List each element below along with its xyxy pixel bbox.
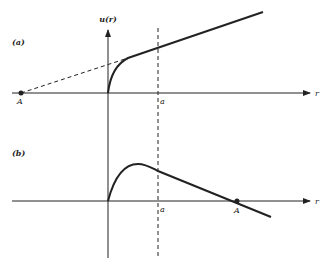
point-A-b [235, 199, 240, 204]
point-A-label-a: A [16, 97, 23, 106]
wavefunction-curve-a [108, 12, 263, 93]
panel-a-tag: (a) [12, 37, 25, 47]
r-axis-label-b: r [315, 197, 320, 206]
point-A-a [19, 91, 24, 96]
scattering-wavefunction-diagram: u(r) (a) r a A (b) r a A [0, 0, 322, 263]
u-axis-label: u(r) [99, 14, 117, 24]
point-A-label-b: A [233, 206, 240, 215]
tick-a-label-a: a [160, 97, 165, 106]
tick-a-label-b: a [160, 205, 165, 214]
panel-b-tag: (b) [12, 148, 25, 158]
panel-b: (b) r a A [12, 148, 320, 217]
r-axis-label-a: r [315, 89, 320, 98]
wavefunction-curve-b [108, 164, 271, 217]
panel-a: u(r) (a) r a A [12, 12, 320, 106]
